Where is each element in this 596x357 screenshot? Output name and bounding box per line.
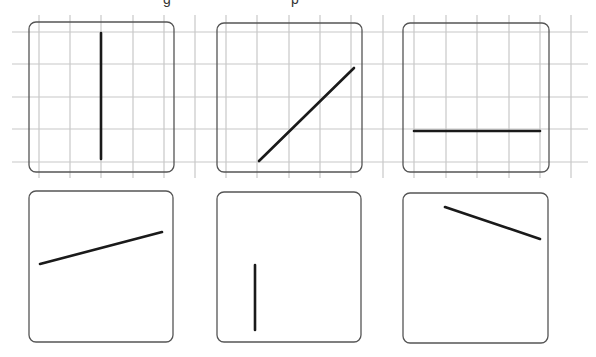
line-segment-diagonal-up [259,68,354,161]
panel-frame [217,192,361,342]
heading-fragment: p [291,0,299,7]
diagram-canvas [0,0,596,357]
panel-frame [403,193,548,343]
panel-bottom-3 [403,193,548,343]
grid-lines [12,15,588,178]
panel-frame [29,191,173,342]
heading-fragment: g [163,0,171,7]
panel-bottom-1 [29,191,173,342]
panel-bottom-2 [217,192,361,342]
